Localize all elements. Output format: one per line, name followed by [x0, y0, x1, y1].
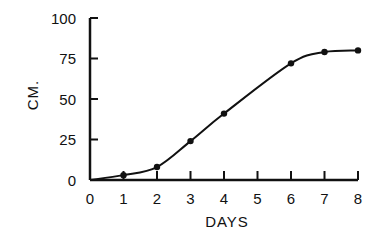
y-tick-label: 75	[59, 50, 76, 67]
data-point-marker	[154, 164, 160, 170]
y-tick-label: 0	[68, 172, 76, 189]
y-axis-title: CM.	[24, 80, 41, 111]
data-point-marker	[288, 60, 294, 66]
data-points	[120, 47, 361, 178]
x-tick-label: 8	[354, 190, 362, 207]
data-point-marker	[221, 110, 227, 116]
y-axis: 0255075100	[51, 10, 98, 189]
x-tick-label: 5	[253, 190, 261, 207]
y-tick-label: 50	[59, 91, 76, 108]
y-tick-label: 100	[51, 10, 76, 27]
x-tick-label: 7	[320, 190, 328, 207]
x-axis-title: DAYS	[205, 213, 249, 230]
x-tick-label: 6	[287, 190, 295, 207]
data-point-marker	[120, 172, 126, 178]
x-tick-label: 1	[119, 190, 127, 207]
growth-chart: 0255075100 012345678 CM. DAYS	[0, 0, 384, 240]
x-tick-label: 4	[220, 190, 228, 207]
data-point-marker	[355, 47, 361, 53]
x-axis: 012345678	[86, 171, 362, 207]
x-tick-label: 2	[153, 190, 161, 207]
y-tick-label: 25	[59, 131, 76, 148]
data-point-marker	[321, 49, 327, 55]
x-tick-label: 0	[86, 190, 94, 207]
data-point-marker	[187, 138, 193, 144]
x-tick-label: 3	[186, 190, 194, 207]
